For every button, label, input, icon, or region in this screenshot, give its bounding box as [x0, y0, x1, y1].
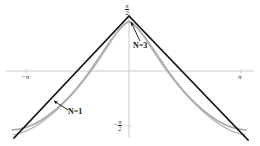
y-axis-tick-label-top: π 2: [125, 3, 129, 17]
fraction-pi-over-2-top: π 2: [125, 3, 129, 17]
fraction-denominator: 2: [118, 126, 122, 132]
fourier-series-figure: π 2 − π 2 −π π N=3 N=1: [0, 0, 260, 146]
annotation-label-n3: N=3: [133, 42, 147, 50]
fraction-pi-over-2-bottom: π 2: [118, 119, 122, 133]
x-axis-tick-label-right: π: [238, 74, 242, 81]
y-axis-tick-label-bottom: − π 2: [114, 119, 122, 133]
annotation-label-n1: N=1: [68, 108, 82, 116]
fraction-numerator: π: [125, 3, 129, 10]
fraction-numerator: π: [118, 119, 122, 126]
plot-canvas: [0, 0, 260, 146]
exact-triangle-wave: [14, 16, 248, 140]
x-axis-tick-label-left: −π: [21, 74, 29, 81]
fraction-denominator: 2: [125, 10, 129, 16]
